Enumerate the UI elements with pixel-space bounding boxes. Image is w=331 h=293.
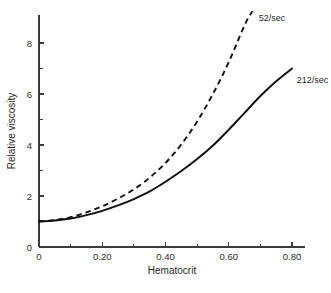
x-axis-tick-labels: 00.200.400.600.80: [36, 251, 301, 262]
x-tick-label-4: 0.40: [156, 251, 175, 262]
series-line-212-per-sec: [39, 69, 292, 222]
x-tick-label-6: 0.60: [220, 251, 239, 262]
x-tick-label-0: 0: [36, 251, 41, 262]
y-axis-ticks: [39, 43, 44, 247]
series-label-52-per-sec: 52/sec: [259, 13, 286, 23]
y-axis-title: Relative viscosity: [6, 93, 17, 170]
y-tick-label-2: 2: [27, 191, 32, 202]
chart-series: [39, 11, 292, 221]
x-tick-label-8: 0.80: [283, 251, 302, 262]
y-tick-label-4: 4: [27, 140, 32, 151]
series-label-212-per-sec: 212/sec: [297, 75, 329, 85]
y-tick-label-8: 8: [27, 38, 32, 49]
relative-viscosity-vs-hematocrit-chart: 00.200.400.600.80 02468 52/sec 212/sec H…: [0, 0, 331, 293]
x-axis-title: Hematocrit: [148, 265, 197, 276]
chart-figure: 00.200.400.600.80 02468 52/sec 212/sec H…: [0, 0, 331, 293]
chart-axes: [39, 15, 305, 247]
series-labels: 52/sec 212/sec: [259, 13, 329, 84]
x-axis-ticks: [39, 242, 292, 247]
y-axis-tick-labels: 02468: [27, 38, 32, 253]
y-tick-label-0: 0: [27, 242, 32, 253]
y-tick-label-6: 6: [27, 89, 32, 100]
x-tick-label-2: 0.20: [93, 251, 112, 262]
series-line-52-per-sec: [39, 11, 252, 221]
